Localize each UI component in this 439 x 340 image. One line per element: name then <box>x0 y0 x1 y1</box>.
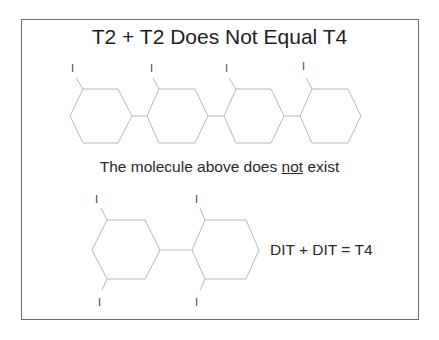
iodine-label: I <box>302 60 305 72</box>
caption-emphasis: not <box>282 158 304 175</box>
ring-2 <box>147 89 208 143</box>
iodine-label: I <box>95 193 98 205</box>
caption-text-end: exist <box>303 158 339 175</box>
iodine-bond-4 <box>306 78 312 89</box>
ring-b <box>192 220 259 279</box>
iodine-bond-3 <box>229 78 236 89</box>
ring-3 <box>224 89 284 143</box>
iodine-label: I <box>150 62 153 74</box>
iodine-label: I <box>225 62 228 74</box>
ring-4 <box>300 89 361 143</box>
iodine-label: I <box>195 296 198 308</box>
iodine-bond-b-bottom <box>200 279 205 290</box>
ring-a <box>92 220 160 279</box>
iodine-label: I <box>195 193 198 205</box>
top-molecule: I I I I <box>70 60 361 143</box>
ring-1 <box>70 89 132 143</box>
caption: The molecule above does not exist <box>0 158 439 176</box>
iodine-bond-b-top <box>200 208 205 220</box>
iodine-label: I <box>71 62 74 74</box>
bottom-molecule: I I I I <box>92 193 259 308</box>
iodine-bond-a-bottom <box>102 279 107 290</box>
iodine-bond-1 <box>76 78 83 89</box>
caption-text: The molecule above does <box>100 158 282 175</box>
equation-label: DIT + DIT = T4 <box>270 241 373 259</box>
iodine-bond-2 <box>153 78 159 89</box>
iodine-label: I <box>98 296 101 308</box>
iodine-bond-a-top <box>101 208 107 220</box>
